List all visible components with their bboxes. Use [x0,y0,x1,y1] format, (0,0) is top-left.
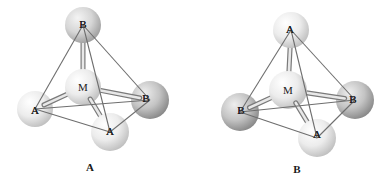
atom-center-m: M [269,71,307,109]
edge-right-front [317,100,355,138]
tetrahedral-structures-diagram: ABBMABABAA BBAMAABBAB [0,0,390,185]
vertex-label-front: A [106,125,114,137]
vertex-label-left: B [237,104,244,116]
atom-center-m-label: M [283,84,293,96]
atom-center-m-label: M [78,81,88,93]
figure-caption-a: A [86,161,94,173]
vertex-label-top: B [79,18,86,30]
vertex-label-top: A [286,23,294,35]
vertex-label-right: B [142,92,149,104]
vertex-label-right: B [349,93,356,105]
vertex-label-left: A [31,104,39,116]
structure-figure-a: ABBMABABAA [17,7,169,173]
figure-caption-b: B [293,163,301,175]
structure-figure-b: BBAMAABBAB [221,12,374,175]
vertex-label-front: A [313,128,321,140]
